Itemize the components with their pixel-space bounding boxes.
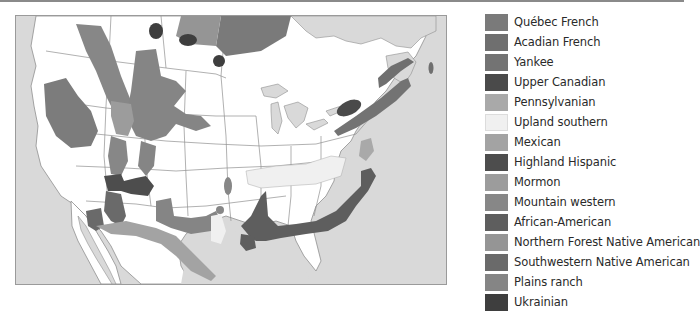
legend-label: Mountain western bbox=[514, 195, 616, 209]
legend-swatch bbox=[485, 34, 508, 51]
legend-label: Pennsylvanian bbox=[514, 95, 596, 109]
top-rule bbox=[0, 0, 684, 2]
legend-swatch bbox=[485, 254, 508, 271]
legend-item-ukrainian: Ukrainian bbox=[485, 292, 684, 312]
legend-item-african-american: African-American bbox=[485, 212, 684, 232]
legend-swatch bbox=[485, 234, 508, 251]
legend-swatch bbox=[485, 14, 508, 31]
legend-label: Highland Hispanic bbox=[514, 155, 616, 169]
legend-swatch bbox=[485, 214, 508, 231]
legend-label: Québec French bbox=[514, 15, 599, 29]
legend-label: Upper Canadian bbox=[514, 75, 605, 89]
region-ukrainian-1 bbox=[149, 23, 163, 39]
legend-swatch bbox=[485, 74, 508, 91]
legend-item-northern-forest-native: Northern Forest Native American bbox=[485, 232, 684, 252]
legend-swatch bbox=[485, 154, 508, 171]
legend-swatch bbox=[485, 134, 508, 151]
legend-item-quebec-french: Québec French bbox=[485, 12, 684, 32]
legend-swatch bbox=[485, 194, 508, 211]
legend-swatch bbox=[485, 274, 508, 291]
legend-label: Upland southern bbox=[514, 115, 608, 129]
legend-swatch bbox=[485, 174, 508, 191]
region-ukrainian-2 bbox=[179, 34, 197, 46]
legend-label: Southwestern Native American bbox=[514, 255, 690, 269]
legend-label: Mexican bbox=[514, 135, 561, 149]
map-legend: Québec French Acadian French Yankee Uppe… bbox=[485, 12, 684, 312]
legend-label: Ukrainian bbox=[514, 295, 568, 309]
cultural-regions-map bbox=[16, 16, 446, 284]
legend-item-acadian-french: Acadian French bbox=[485, 32, 684, 52]
legend-item-mexican: Mexican bbox=[485, 132, 684, 152]
legend-swatch bbox=[485, 54, 508, 71]
legend-item-yankee: Yankee bbox=[485, 52, 684, 72]
legend-label: Plains ranch bbox=[514, 275, 583, 289]
region-blob-kansas bbox=[224, 177, 232, 195]
region-blob-ok bbox=[216, 206, 224, 214]
legend-item-mormon: Mormon bbox=[485, 172, 684, 192]
region-ukrainian-3 bbox=[213, 55, 225, 67]
legend-item-plains-ranch: Plains ranch bbox=[485, 272, 684, 292]
legend-label: Mormon bbox=[514, 175, 560, 189]
legend-label: Yankee bbox=[514, 55, 554, 69]
legend-item-mountain-western: Mountain western bbox=[485, 192, 684, 212]
region-acadian-2 bbox=[429, 62, 434, 74]
legend-label: Northern Forest Native American bbox=[514, 235, 700, 249]
legend-swatch bbox=[485, 114, 508, 131]
legend-label: Acadian French bbox=[514, 35, 600, 49]
legend-swatch bbox=[485, 94, 508, 111]
map-frame bbox=[15, 15, 447, 285]
region-pennsylvanian bbox=[359, 138, 374, 161]
legend-item-upper-canadian: Upper Canadian bbox=[485, 72, 684, 92]
legend-swatch bbox=[485, 294, 508, 311]
legend-item-upland-southern: Upland southern bbox=[485, 112, 684, 132]
legend-item-pennsylvanian: Pennsylvanian bbox=[485, 92, 684, 112]
legend-item-southwestern-native: Southwestern Native American bbox=[485, 252, 684, 272]
legend-label: African-American bbox=[514, 215, 611, 229]
legend-item-highland-hispanic: Highland Hispanic bbox=[485, 152, 684, 172]
